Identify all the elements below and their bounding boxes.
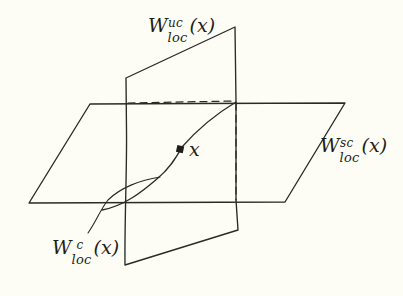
label-point-x: x — [189, 140, 200, 159]
label-c-superscript: c — [77, 239, 84, 251]
label-sc-base: W — [320, 134, 340, 156]
label-c-base: W — [52, 236, 72, 258]
invariant-manifolds-figure: Wucloc(x) Wscloc(x) Wcloc(x) x — [0, 0, 403, 296]
label-uc-superscript: uc — [168, 17, 183, 29]
label-center-manifold: Wcloc(x) — [52, 238, 119, 257]
label-c-subscript: loc — [72, 253, 92, 266]
label-uc-argument: (x) — [190, 14, 216, 36]
label-unstable-center-manifold: Wucloc(x) — [148, 16, 215, 35]
label-c-argument: (x) — [94, 236, 120, 258]
label-sc-argument: (x) — [362, 134, 388, 156]
label-stable-center-manifold: Wscloc(x) — [320, 136, 387, 155]
label-uc-base: W — [148, 14, 168, 36]
label-sc-subscript: loc — [340, 151, 360, 164]
label-sc-superscript: sc — [340, 137, 353, 149]
label-uc-subscript: loc — [168, 31, 188, 44]
point-marker-x — [176, 145, 184, 153]
